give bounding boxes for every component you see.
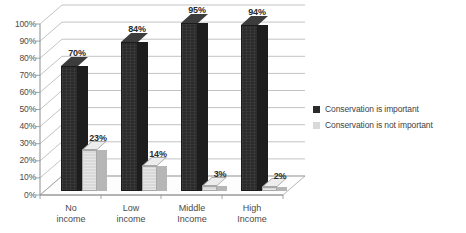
x-tick-label-3-line2: Income [217, 214, 287, 225]
legend-swatch-icon-0 [313, 106, 320, 113]
x-tick-label-3: High Income [217, 203, 287, 225]
legend-item-0[interactable]: Conservation is important [313, 104, 433, 114]
y-tick-0: 0% [2, 191, 36, 200]
x-axis-ticks [40, 195, 283, 199]
bar-front-face [61, 66, 78, 191]
data-label-s1-c3: 2% [263, 171, 297, 181]
bar-front-face [121, 42, 138, 191]
y-tick-50: 50% [2, 105, 36, 114]
y-tick-90: 90% [2, 37, 36, 46]
data-label-s0-c1: 84% [120, 24, 154, 34]
y-tick-30: 30% [2, 139, 36, 148]
y-tick-100: 100% [2, 20, 36, 29]
x-tick-label-1-line2: income [96, 214, 166, 225]
bar-series0-cat2 [181, 23, 198, 191]
bar-series0-cat3 [241, 25, 258, 191]
y-axis-labels: 100% 90% 80% 70% 60% 50% 40% 30% 20% 10%… [0, 0, 36, 233]
bar-series1-cat3 [262, 187, 277, 191]
y-axis-ticks [36, 24, 40, 195]
y-tick-10: 10% [2, 173, 36, 182]
x-tick-label-1: Low income [96, 203, 166, 225]
y-tick-80: 80% [2, 54, 36, 63]
y-tick-40: 40% [2, 122, 36, 131]
data-label-s1-c2: 3% [203, 169, 237, 179]
chart-container: 100% 90% 80% 70% 60% 50% 40% 30% 20% 10%… [0, 0, 466, 233]
bar-side-face [157, 166, 167, 191]
y-tick-70: 70% [2, 71, 36, 80]
data-label-s1-c0: 23% [81, 133, 115, 143]
bar-front-face [82, 150, 97, 191]
bar-front-face [202, 186, 217, 191]
x-tick-label-3-line1: High [217, 203, 287, 214]
bar-side-face [277, 187, 287, 191]
data-label-s0-c2: 95% [180, 5, 214, 15]
data-label-s0-c0: 70% [60, 48, 94, 58]
bar-series1-cat0 [82, 150, 97, 191]
data-label-s1-c1: 14% [141, 149, 175, 159]
x-tick-label-1-line1: Low [96, 203, 166, 214]
bar-series1-cat2 [202, 186, 217, 191]
bar-front-face [241, 25, 258, 191]
bar-side-face [217, 186, 227, 191]
bar-series0-cat1 [121, 42, 138, 191]
data-label-s0-c3: 94% [240, 7, 274, 17]
bar-side-face [97, 150, 107, 191]
legend-label-1: Conservation is not important [325, 120, 433, 130]
depth-connectors [40, 5, 62, 195]
bar-front-face [142, 166, 157, 191]
chart-legend: Conservation is important Conservation i… [313, 104, 433, 136]
y-tick-20: 20% [2, 156, 36, 165]
bar-front-face [181, 23, 198, 191]
legend-item-1[interactable]: Conservation is not important [313, 120, 433, 130]
bar-front-face [262, 187, 277, 191]
bar-side-face [198, 23, 208, 191]
legend-swatch-icon-1 [313, 122, 320, 129]
bar-side-face [258, 25, 268, 191]
y-tick-60: 60% [2, 88, 36, 97]
legend-label-0: Conservation is important [325, 104, 419, 114]
bar-series1-cat1 [142, 166, 157, 191]
bar-series0-cat0 [61, 66, 78, 191]
